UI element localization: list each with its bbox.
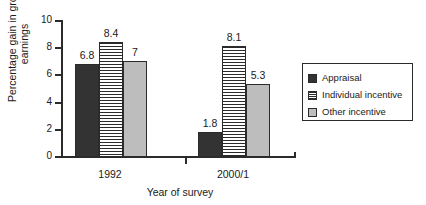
bar-label-2000-1-appraisal: 1.8 (190, 117, 230, 129)
legend-label-other-incentive: Other incentive (322, 107, 386, 117)
bar-label-1992-individual-incentive: 8.4 (91, 27, 131, 39)
bar-label-1992-other-incentive: 7 (115, 46, 155, 58)
bar-2000-1-other-incentive (246, 84, 270, 157)
legend-swatch-other-incentive (308, 108, 317, 117)
x-category-label-2000-1: 2000/1 (198, 168, 268, 180)
legend-item-individual-incentive: Individual incentive (308, 87, 412, 103)
legend-label-appraisal: Appraisal (322, 73, 362, 83)
x-axis-end-tick (294, 152, 296, 158)
plot-area: 6.8 8.4 7 1.8 8.1 5.3 (61, 20, 295, 157)
bar-2000-1-individual-incentive (222, 46, 246, 157)
y-tick-label-10: 10 (12, 15, 52, 25)
legend-label-individual-incentive: Individual incentive (322, 90, 402, 100)
y-tick-label-4: 4 (12, 97, 52, 107)
bar-1992-appraisal (75, 64, 99, 157)
bar-chart: Percentage gain in gross earnings 10 8 6… (0, 0, 426, 205)
bar-label-2000-1-other-incentive: 5.3 (238, 69, 278, 81)
bar-1992-other-incentive (123, 61, 147, 157)
legend-item-other-incentive: Other incentive (308, 104, 412, 120)
bar-label-1992-appraisal: 6.8 (67, 49, 107, 61)
y-tick-label-0: 0 (12, 151, 52, 161)
legend-item-appraisal: Appraisal (308, 70, 412, 86)
x-tick-between-groups (185, 158, 187, 164)
bar-2000-1-appraisal (198, 132, 222, 157)
x-category-label-1992: 1992 (75, 168, 145, 180)
y-tick-label-8: 8 (12, 42, 52, 52)
bar-label-2000-1-individual-incentive: 8.1 (214, 31, 254, 43)
x-axis-line (61, 156, 296, 158)
legend: Appraisal Individual incentive Other inc… (302, 63, 413, 121)
y-tick-label-6: 6 (12, 69, 52, 79)
legend-swatch-appraisal (308, 74, 317, 83)
y-tick-label-2: 2 (12, 124, 52, 134)
x-axis-title: Year of survey (110, 186, 250, 198)
legend-swatch-individual-incentive (308, 91, 317, 100)
